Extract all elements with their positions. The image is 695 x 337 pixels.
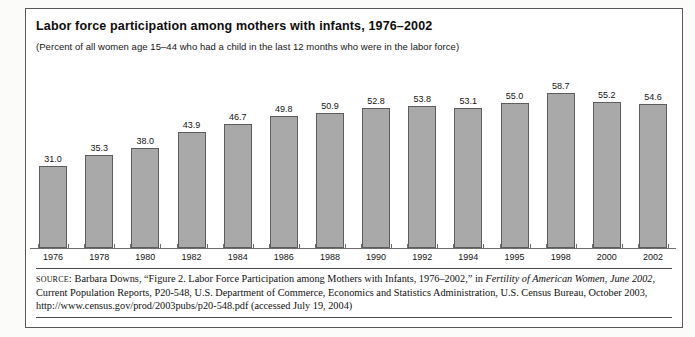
x-axis-tick xyxy=(223,244,224,248)
x-axis-label: 1986 xyxy=(274,252,294,262)
bar-value-label: 50.9 xyxy=(321,101,339,111)
bar[interactable] xyxy=(316,113,344,248)
bar-column[interactable]: 31.0 xyxy=(39,70,67,248)
bar[interactable] xyxy=(178,132,206,248)
figure-subtitle: (Percent of all women age 15–44 who had … xyxy=(36,41,459,52)
x-axis-label: 2000 xyxy=(597,252,617,262)
x-axis-label: 1982 xyxy=(181,252,201,262)
x-axis-tick xyxy=(576,244,577,248)
x-axis-tick xyxy=(160,244,161,248)
x-axis-label: 1994 xyxy=(458,252,478,262)
bar-value-label: 43.9 xyxy=(183,120,201,130)
x-axis-line xyxy=(30,248,676,249)
source-line-1-a: Barbara Downs, “Figure 2. Labor Force Pa… xyxy=(72,273,486,284)
x-axis-tick xyxy=(299,244,300,248)
x-axis-label: 1976 xyxy=(43,252,63,262)
source-divider-bottom xyxy=(36,317,672,318)
x-axis-tick xyxy=(453,244,454,248)
x-axis-tick xyxy=(269,244,270,248)
bar-series: 31.035.338.043.946.749.850.952.853.853.1… xyxy=(30,70,678,248)
bar-column[interactable]: 38.0 xyxy=(131,70,159,248)
source-note: source: Barbara Downs, “Figure 2. Labor … xyxy=(36,272,678,313)
x-axis-tick xyxy=(391,244,392,248)
source-divider-top xyxy=(36,268,672,269)
x-axis-tick xyxy=(253,244,254,248)
x-axis-label: 1998 xyxy=(551,252,571,262)
source-line-2: Current Population Reports, P20-548, U.S… xyxy=(36,286,678,300)
bar[interactable] xyxy=(362,108,390,248)
bar[interactable] xyxy=(639,104,667,248)
bar-column[interactable]: 49.8 xyxy=(270,70,298,248)
x-axis-label: 2002 xyxy=(643,252,663,262)
bar-value-label: 55.2 xyxy=(598,90,616,100)
x-axis-tick xyxy=(315,244,316,248)
bar[interactable] xyxy=(39,166,67,248)
bar[interactable] xyxy=(224,124,252,248)
bar-value-label: 35.3 xyxy=(90,143,108,153)
x-axis-tick xyxy=(407,244,408,248)
bar-value-label: 53.1 xyxy=(460,96,478,106)
bar-value-label: 38.0 xyxy=(137,136,155,146)
x-axis-label: 1995 xyxy=(504,252,524,262)
source-line-1-italic: Fertility of American Women, June 2002 xyxy=(485,273,652,284)
x-axis-tick xyxy=(592,244,593,248)
x-axis-label: 1988 xyxy=(320,252,340,262)
bar-column[interactable]: 54.6 xyxy=(639,70,667,248)
x-axis-tick xyxy=(500,244,501,248)
figure-container: Labor force participation among mothers … xyxy=(0,0,695,337)
bar-value-label: 49.8 xyxy=(275,104,293,114)
x-axis-tick xyxy=(622,244,623,248)
bar-value-label: 55.0 xyxy=(506,91,524,101)
x-axis-tick xyxy=(668,244,669,248)
bar-chart-plot-area: 31.035.338.043.946.749.850.952.853.853.1… xyxy=(30,70,678,249)
bar[interactable] xyxy=(593,102,621,248)
x-axis-tick xyxy=(84,244,85,248)
bar-column[interactable]: 55.0 xyxy=(501,70,529,248)
bar-column[interactable]: 53.1 xyxy=(454,70,482,248)
bar-column[interactable]: 43.9 xyxy=(178,70,206,248)
bar[interactable] xyxy=(408,106,436,248)
x-axis-tick xyxy=(437,244,438,248)
bar-column[interactable]: 52.8 xyxy=(362,70,390,248)
bar[interactable] xyxy=(85,155,113,248)
bar-value-label: 58.7 xyxy=(552,81,570,91)
source-line-3: http://www.census.gov/prod/2003pubs/p20-… xyxy=(36,299,678,313)
bar-column[interactable]: 55.2 xyxy=(593,70,621,248)
bar-value-label: 53.8 xyxy=(413,94,431,104)
bar-column[interactable]: 53.8 xyxy=(408,70,436,248)
bar-column[interactable]: 46.7 xyxy=(224,70,252,248)
x-axis-tick xyxy=(345,244,346,248)
bar-value-label: 52.8 xyxy=(367,96,385,106)
x-axis-tick xyxy=(177,244,178,248)
source-line-1: source: Barbara Downs, “Figure 2. Labor … xyxy=(36,272,678,286)
x-axis-tick xyxy=(638,244,639,248)
x-axis-label: 1980 xyxy=(135,252,155,262)
bar-column[interactable]: 35.3 xyxy=(85,70,113,248)
x-axis-tick xyxy=(38,244,39,248)
bar-value-label: 46.7 xyxy=(229,112,247,122)
x-axis-tick xyxy=(207,244,208,248)
page-title: Labor force participation among mothers … xyxy=(36,19,432,33)
bar-value-label: 54.6 xyxy=(644,92,662,102)
x-axis-label: 1992 xyxy=(412,252,432,262)
bar-column[interactable]: 50.9 xyxy=(316,70,344,248)
source-line-1-b: , xyxy=(653,273,656,284)
x-axis-tick xyxy=(546,244,547,248)
bar-column[interactable]: 58.7 xyxy=(547,70,575,248)
x-axis-label: 1978 xyxy=(89,252,109,262)
x-axis-label: 1990 xyxy=(366,252,386,262)
x-axis-tick xyxy=(130,244,131,248)
x-axis-tick xyxy=(361,244,362,248)
x-axis-tick xyxy=(530,244,531,248)
bar[interactable] xyxy=(131,148,159,249)
bar[interactable] xyxy=(501,103,529,248)
source-label: source: xyxy=(36,272,72,284)
bar-value-label: 31.0 xyxy=(44,154,62,164)
bar[interactable] xyxy=(454,108,482,248)
bar[interactable] xyxy=(547,93,575,248)
x-axis-tick xyxy=(483,244,484,248)
x-axis-tick xyxy=(114,244,115,248)
x-axis-tick xyxy=(68,244,69,248)
x-axis-label: 1984 xyxy=(228,252,248,262)
bar[interactable] xyxy=(270,116,298,248)
